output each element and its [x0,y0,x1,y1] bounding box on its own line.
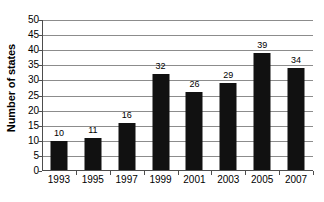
x-axis-tick-label: 2007 [279,174,313,186]
y-axis-tick-label: 40 [20,45,39,55]
y-axis-tick-label: 15 [20,121,39,131]
plot-frame [42,20,313,171]
x-axis-tick-label: 1999 [144,174,178,186]
y-axis-tick-label: 5 [20,151,39,161]
y-axis-tick-label: 50 [20,15,39,25]
y-axis-tick-label: 20 [20,106,39,116]
y-axis-tick-label: 35 [20,60,39,70]
x-axis-tick-labels: 19931995199719992001200320052007 [42,174,313,190]
x-axis-tick-label: 2003 [211,174,245,186]
y-axis-tick-label: 45 [20,30,39,40]
x-axis-tick-label: 1993 [42,174,76,186]
y-axis-tick-label: 0 [20,166,39,176]
x-axis-tick-mark [313,171,314,175]
y-axis-tick-label: 25 [20,91,39,101]
y-axis-tick-label: 30 [20,75,39,85]
y-axis-tick-labels: 05101520253035404550 [20,20,39,171]
x-axis-tick-label: 1997 [110,174,144,186]
x-axis-tick-label: 2001 [178,174,212,186]
x-axis-tick-label: 2005 [245,174,279,186]
bar-chart: Number of states 05101520253035404550 10… [0,0,324,202]
y-axis-tick-mark [38,171,42,172]
y-axis-tick-label: 10 [20,136,39,146]
y-axis-title: Number of states [0,0,22,175]
x-axis-tick-label: 1995 [76,174,110,186]
y-axis-title-text: Number of states [5,43,17,131]
plot-area: 1011163226293934 [42,20,313,171]
